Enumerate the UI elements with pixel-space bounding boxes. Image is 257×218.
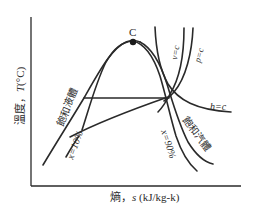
quality-10-curve [82, 41, 133, 130]
saturated-vapor-label: 飽和汽體 [180, 114, 214, 153]
diagonal-process-line [70, 97, 168, 137]
constant-enthalpy-label: h=c [210, 101, 227, 112]
critical-point-label: C [129, 26, 136, 38]
saturated-liquid-curve [43, 41, 140, 166]
ts-diagram: C 飽和液體 飽和汽體 x=10% x=90% v=c p=c h=c 溫度，T… [0, 0, 257, 218]
constant-pressure-label: p=c [192, 47, 206, 65]
y-axis-label: 溫度，T(°C) [13, 66, 27, 125]
constant-volume-label: v=c [169, 45, 181, 61]
quality-10-label: x=10% [64, 129, 85, 161]
x-axis-label: 熵，s (kJ/kg-k) [110, 190, 180, 204]
saturated-liquid-label: 飽和液體 [54, 86, 80, 128]
critical-point-marker [130, 39, 136, 45]
